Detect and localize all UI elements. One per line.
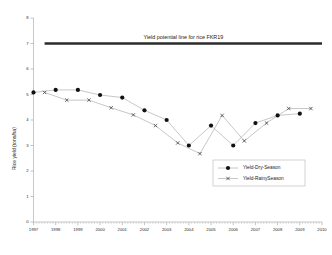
x-tick-label-2000: 2000 — [95, 227, 105, 232]
yield-potential-label: Yield potential line for rice FKR19 — [143, 34, 223, 40]
legend-item-dry-season[interactable]: Yield-Dry-Season — [218, 165, 281, 170]
data-point-dry — [98, 93, 102, 97]
data-point-dry — [142, 108, 146, 112]
x-tick-label-2002: 2002 — [140, 227, 150, 232]
data-point-dry — [209, 124, 213, 128]
data-point-dry — [76, 88, 80, 92]
x-tick-label-2010: 2010 — [317, 227, 327, 232]
x-tick-label-2006: 2006 — [229, 227, 239, 232]
legend-label: Yield-Dry-Season — [243, 165, 281, 170]
x-tick-label-1997: 1997 — [29, 227, 39, 232]
x-tick-label-2007: 2007 — [251, 227, 261, 232]
data-point-dry — [253, 121, 257, 125]
data-point-dry — [31, 90, 35, 94]
data-point-dry — [298, 112, 302, 116]
data-point-dry — [187, 143, 191, 147]
legend-marker-circle-icon — [226, 166, 230, 170]
chart-figure: Rice yield (tons/ha) 012345678 199719981… — [0, 0, 332, 255]
legend[interactable]: Yield-Dry-SeasonYield-RainySeason — [213, 160, 305, 186]
legend-label: Yield-RainySeason — [243, 176, 284, 181]
y-axis-title-text: Rice yield (tons/ha) — [11, 127, 17, 170]
x-tick-label-2008: 2008 — [273, 227, 283, 232]
data-point-dry — [165, 118, 169, 122]
data-point-dry — [120, 95, 124, 99]
data-point-dry — [231, 143, 235, 147]
x-tick-label-2009: 2009 — [295, 227, 305, 232]
x-tick-label-2004: 2004 — [184, 227, 194, 232]
x-tick-label-2001: 2001 — [118, 227, 128, 232]
data-point-dry — [54, 88, 58, 92]
x-tick-label-1999: 1999 — [73, 227, 83, 232]
x-tick-label-2005: 2005 — [206, 227, 216, 232]
chart-canvas: Rice yield (tons/ha) 012345678 199719981… — [0, 0, 332, 255]
y-axis-title: Rice yield (tons/ha) — [11, 127, 17, 170]
x-tick-label-2003: 2003 — [162, 227, 172, 232]
x-tick-label-1998: 1998 — [51, 227, 61, 232]
data-point-dry — [276, 113, 280, 117]
legend-box — [213, 160, 305, 186]
